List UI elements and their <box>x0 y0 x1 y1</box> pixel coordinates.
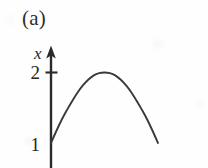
figure-panel: (a) 2 1 x <box>0 0 208 168</box>
tick-label-1: 1 <box>31 134 41 155</box>
data-curve <box>51 73 158 144</box>
x-axis-label: x <box>33 44 42 63</box>
tick-label-2: 2 <box>31 62 41 83</box>
plot-area: 2 1 x <box>0 0 208 168</box>
